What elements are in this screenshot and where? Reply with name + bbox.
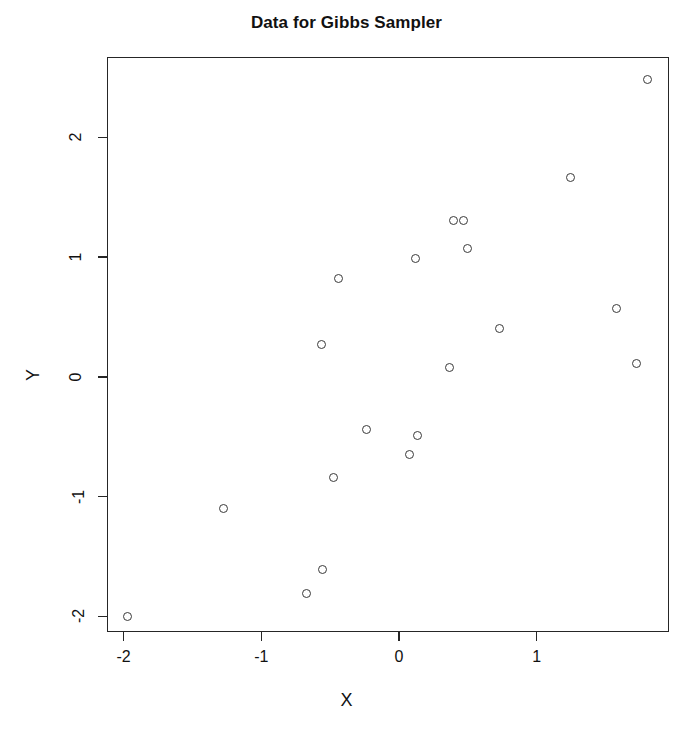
data-point <box>411 254 420 263</box>
data-point <box>334 274 343 283</box>
data-point <box>405 450 414 459</box>
data-point <box>495 324 504 333</box>
y-tick-label: 1 <box>67 253 85 262</box>
scatter-plot-figure: Data for Gibbs Sampler X Y -2-101-2-1012 <box>0 0 693 742</box>
x-tick <box>398 632 399 641</box>
y-tick <box>98 496 107 497</box>
data-point <box>445 363 454 372</box>
data-point <box>123 612 132 621</box>
data-point <box>362 425 371 434</box>
data-point <box>643 75 652 84</box>
data-point <box>463 244 472 253</box>
y-tick <box>98 616 107 617</box>
y-tick-label: -2 <box>70 609 88 623</box>
x-tick <box>123 632 124 641</box>
y-tick-label: 0 <box>67 372 85 381</box>
x-tick <box>536 632 537 641</box>
data-point <box>219 504 228 513</box>
y-tick <box>98 256 107 257</box>
data-point <box>329 473 338 482</box>
data-point <box>566 173 575 182</box>
data-point <box>413 431 422 440</box>
x-tick-label: 0 <box>395 648 404 666</box>
data-point <box>632 359 641 368</box>
x-tick-label: -1 <box>254 648 268 666</box>
data-point <box>317 340 326 349</box>
y-axis-label: Y <box>23 369 44 381</box>
data-point <box>612 304 621 313</box>
data-point <box>302 589 311 598</box>
plot-area <box>107 57 669 632</box>
x-tick <box>261 632 262 641</box>
page-title: Data for Gibbs Sampler <box>0 13 693 33</box>
y-tick <box>98 376 107 377</box>
y-tick-label: -1 <box>70 490 88 504</box>
y-tick <box>98 137 107 138</box>
x-tick-label: 1 <box>532 648 541 666</box>
data-point <box>459 216 468 225</box>
data-points-layer <box>108 58 668 631</box>
data-point <box>449 216 458 225</box>
data-point <box>318 565 327 574</box>
x-tick-label: -2 <box>116 648 130 666</box>
y-tick-label: 2 <box>67 133 85 142</box>
x-axis-label: X <box>0 690 693 711</box>
